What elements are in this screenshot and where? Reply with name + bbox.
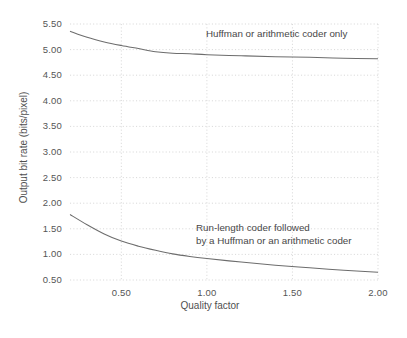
annotation-lower-curve: Run-length coder followed by a Huffman o…	[196, 222, 352, 247]
y-tick-label: 3.50	[28, 120, 62, 131]
x-tick-label: 2.00	[358, 287, 398, 298]
annotation-lower-line1: Run-length coder followed	[196, 222, 352, 235]
y-tick-label: 4.50	[28, 69, 62, 80]
x-axis-title: Quality factor	[150, 300, 270, 311]
y-tick-label: 0.50	[28, 274, 62, 285]
y-tick-label: 1.00	[28, 248, 62, 259]
y-tick-label: 5.00	[28, 44, 62, 55]
annotation-lower-line2: by a Huffman or an arithmetic coder	[196, 235, 352, 248]
y-tick-label: 2.00	[28, 197, 62, 208]
x-tick-label: 1.00	[187, 287, 227, 298]
annotation-upper-curve: Huffman or arithmetic coder only	[206, 28, 347, 41]
x-tick-label: 1.50	[272, 287, 312, 298]
y-tick-label: 1.50	[28, 223, 62, 234]
x-tick-label: 0.50	[101, 287, 141, 298]
y-tick-label: 4.00	[28, 95, 62, 106]
y-tick-label: 3.00	[28, 146, 62, 157]
y-tick-label: 2.50	[28, 172, 62, 183]
y-axis-title: Output bit rate (bits/pixel)	[18, 73, 29, 223]
y-tick-label: 5.50	[28, 18, 62, 29]
